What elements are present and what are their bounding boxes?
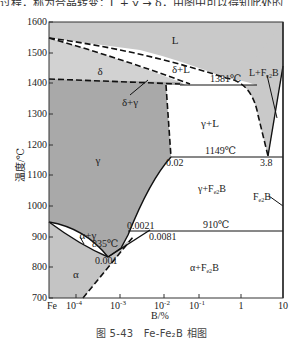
label-1381C: 1381℃: [210, 73, 241, 84]
label-delta-gamma: δ+γ: [122, 96, 138, 108]
label-gamma: γ: [95, 154, 101, 166]
label-delta-L: δ+L: [172, 63, 190, 75]
label-0.0021: 0.0021: [127, 220, 155, 231]
label-gamma-L: γ+L: [200, 117, 219, 129]
label-gamma-Fe2B: γ+Fe2B: [197, 183, 226, 195]
label-0.0081: 0.0081: [149, 231, 177, 242]
y-tick-1300: 1300: [27, 108, 47, 119]
label-L: L: [172, 34, 179, 46]
label-delta: δ: [97, 65, 102, 77]
x-tick-fe: Fe: [47, 300, 58, 311]
y-tick-1500: 1500: [27, 47, 47, 58]
x-tick-10: 10: [278, 300, 288, 311]
y-tick-1100: 1100: [27, 169, 47, 180]
label-0.02: 0.02: [166, 157, 184, 168]
y-tick-700: 700: [32, 292, 47, 303]
y-axis-label: 温度/℃: [14, 148, 26, 182]
phase-diagram: 1600 1500 1400 1300 1200 1100 1000 900 8…: [0, 0, 303, 325]
label-0.001: 0.001: [95, 255, 118, 266]
y-tick-1200: 1200: [27, 139, 47, 150]
label-alpha: α: [73, 268, 79, 280]
x-tick-1e-4: 10-4: [66, 299, 82, 311]
figure-caption: 图 5-43 Fe-Fe₂B 相图: [0, 325, 303, 340]
label-835C: 835℃: [92, 238, 118, 249]
label-L-Fe2B: L+Fe2B: [249, 67, 279, 79]
x-tick-1e-3: 10-3: [110, 299, 126, 311]
y-tick-1600: 1600: [27, 16, 47, 27]
label-3.8: 3.8: [260, 157, 273, 168]
x-tick-1: 1: [239, 300, 244, 311]
y-tick-1400: 1400: [27, 77, 47, 88]
label-1149C: 1149℃: [205, 145, 236, 156]
label-alpha-Fe2B: α+Fe2B: [190, 262, 219, 274]
y-tick-1000: 1000: [27, 200, 47, 211]
label-910C: 910℃: [203, 219, 229, 230]
x-axis-label: B/%: [151, 310, 169, 321]
x-tick-1e-1: 10-1: [189, 299, 205, 311]
y-tick-900: 900: [32, 231, 47, 242]
y-tick-800: 800: [32, 261, 47, 272]
